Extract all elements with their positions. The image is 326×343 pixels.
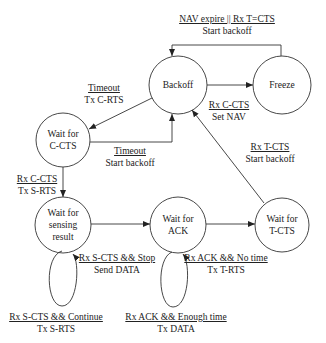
edge-label-wait-c-cts-to-sensing: Rx C-CTS Tx S-RTS	[17, 173, 57, 197]
node-label-line: Wait for	[162, 213, 193, 225]
edge-wait-c-cts-to-backoff	[90, 114, 172, 142]
edge-condition: Rx C-CTS	[209, 99, 249, 111]
node-label-line: Wait for	[266, 213, 297, 225]
edge-label-ack-self-loop: Rx ACK && Enough time Tx DATA	[125, 311, 226, 335]
node-label-wait-t-cts: Wait for T-CTS	[266, 213, 297, 237]
node-label-line: sensing	[47, 219, 78, 231]
edge-label-backoff-to-freeze: Rx C-CTS Set NAV	[209, 99, 249, 123]
node-label-line: result	[47, 231, 78, 243]
node-label-line: Wait for	[47, 128, 78, 140]
node-label-backoff: Backoff	[163, 79, 193, 91]
node-label-line: C-CTS	[47, 140, 78, 152]
edge-label-wait-c-cts-to-backoff: Timeout Start backoff	[105, 145, 154, 169]
node-label-wait-c-cts: Wait for C-CTS	[47, 128, 78, 152]
state-diagram-canvas	[0, 0, 326, 343]
edge-action: Tx T-RTS	[184, 264, 267, 276]
edge-label-sensing-to-ack: Rx S-CTS && Stop Send DATA	[79, 252, 155, 276]
edge-label-t-cts-to-backoff: Rx T-CTS Start backoff	[245, 141, 294, 165]
edge-condition: Timeout	[105, 145, 154, 157]
node-label-line: ACK	[162, 225, 193, 237]
edge-action: Tx C-RTS	[84, 94, 123, 106]
edge-label-sensing-self-loop: Rx S-CTS && Continue Tx S-RTS	[9, 311, 103, 335]
node-label-line: Freeze	[269, 79, 294, 91]
node-label-line: Wait for	[47, 207, 78, 219]
edge-condition: Rx ACK && Enough time	[125, 311, 226, 323]
node-label-wait-ack: Wait for ACK	[162, 213, 193, 237]
edge-condition: Timeout	[84, 82, 123, 94]
edge-action: Start backoff	[105, 157, 154, 169]
edge-condition: Rx C-CTS	[17, 173, 57, 185]
edge-sensing-self-loop	[49, 251, 77, 306]
edge-label-backoff-to-wait-c-cts: Timeout Tx C-RTS	[84, 82, 123, 106]
edge-action: Tx S-RTS	[17, 185, 57, 197]
edge-condition: NAV expire || Rx T=CTS	[179, 13, 275, 25]
edge-condition: Rx S-CTS && Stop	[79, 252, 155, 264]
edge-label-ack-to-t-cts: Rx ACK && No time Tx T-RTS	[184, 252, 267, 276]
node-label-line: T-CTS	[266, 225, 297, 237]
edge-action: Set NAV	[209, 111, 249, 123]
node-label-line: Backoff	[163, 79, 193, 91]
edge-label-freeze-to-backoff: NAV expire || Rx T=CTS Start backoff	[179, 13, 275, 37]
edge-condition: Rx ACK && No time	[184, 252, 267, 264]
edge-action: Tx S-RTS	[9, 323, 103, 335]
edge-action: Tx DATA	[125, 323, 226, 335]
node-label-wait-sensing-result: Wait for sensing result	[47, 207, 78, 243]
edge-action: Start backoff	[179, 25, 275, 37]
edge-action: Send DATA	[79, 264, 155, 276]
node-label-freeze: Freeze	[269, 79, 294, 91]
edge-condition: Rx S-CTS && Continue	[9, 311, 103, 323]
edge-condition: Rx T-CTS	[245, 141, 294, 153]
edge-freeze-to-backoff	[172, 45, 281, 56]
edge-action: Start backoff	[245, 153, 294, 165]
